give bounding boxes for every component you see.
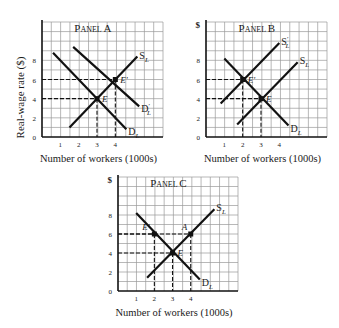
curve-label: SL <box>216 202 226 216</box>
x-tick-label: 3 <box>171 295 175 303</box>
curve-label: SL <box>300 55 310 69</box>
y-tick-label: 2 <box>197 115 201 123</box>
y-axis-label: $ <box>196 20 201 30</box>
y-tick-label: 8 <box>33 57 37 65</box>
y-tick-label: 0 <box>33 134 37 142</box>
x-axis-label: Number of workers (1000s) <box>116 307 233 319</box>
curve-s_l <box>70 57 138 128</box>
x-axis-label: Number of workers (1000s) <box>40 153 157 165</box>
x-tick-label: 3 <box>95 141 99 149</box>
y-tick-label: 0 <box>109 288 113 296</box>
x-tick-label: 1 <box>223 141 227 149</box>
curve-label: DL <box>202 277 213 291</box>
equilibrium-point <box>113 77 118 82</box>
y-tick-label: 4 <box>197 96 201 104</box>
y-tick-label: 2 <box>109 269 113 277</box>
x-tick-label: 4 <box>278 141 282 149</box>
y-axis-label: Real-wage rate ($) <box>14 56 27 138</box>
x-tick-label: 4 <box>114 141 118 149</box>
panel-c-chart: PANEL C024681234Number of workers (1000s… <box>80 165 260 328</box>
panel-a-chart: PANEL A024681234Number of workers (1000s… <box>0 0 170 165</box>
y-axis-label: $ <box>108 175 113 185</box>
panel-a: PANEL A024681234Number of workers (1000s… <box>0 0 170 165</box>
y-tick-label: 2 <box>33 115 37 123</box>
x-tick-label: 4 <box>189 295 193 303</box>
equilibrium-point <box>259 96 264 101</box>
point-label: E <box>101 94 108 104</box>
panel-c: PANEL C024681234Number of workers (1000s… <box>80 165 260 328</box>
x-tick-label: 2 <box>241 141 245 149</box>
curve-label: DL <box>128 126 139 140</box>
point-label: E <box>177 248 184 258</box>
equilibrium-point <box>170 251 175 256</box>
x-tick-label: 1 <box>134 295 138 303</box>
y-tick-label: 6 <box>197 77 201 85</box>
x-axis-label: Number of workers (1000s) <box>204 153 321 165</box>
equilibrium-point <box>188 232 193 237</box>
panel-b-chart: PANEL B024681234Number of workers (1000s… <box>170 0 339 165</box>
y-tick-label: 4 <box>109 250 113 258</box>
y-tick-label: 8 <box>109 212 113 220</box>
point-label: E' <box>247 75 256 85</box>
panel-title: PANEL A <box>74 22 111 34</box>
point-label: E' <box>141 222 150 232</box>
point-label: E <box>265 94 272 104</box>
x-tick-label: 2 <box>153 295 157 303</box>
curve-label: DL <box>291 123 302 137</box>
y-tick-label: 6 <box>33 77 37 85</box>
panel-title: PANEL B <box>239 22 276 34</box>
curve-label: SL <box>139 50 149 64</box>
curve-label: D′L <box>141 102 151 117</box>
equilibrium-point <box>95 96 100 101</box>
equilibrium-point <box>152 232 157 237</box>
y-tick-label: 8 <box>197 57 201 65</box>
x-tick-label: 3 <box>259 141 263 149</box>
y-tick-label: 4 <box>33 96 37 104</box>
x-tick-label: 2 <box>77 141 81 149</box>
panel-title: PANEL C <box>150 177 187 189</box>
point-label: E' <box>119 75 128 85</box>
x-tick-label: 1 <box>59 141 63 149</box>
y-tick-label: 6 <box>109 231 113 239</box>
point-label: A <box>181 222 188 232</box>
curve-label: S′L <box>281 35 289 50</box>
panel-b: PANEL B024681234Number of workers (1000s… <box>170 0 339 165</box>
equilibrium-point <box>240 77 245 82</box>
y-tick-label: 0 <box>197 134 201 142</box>
